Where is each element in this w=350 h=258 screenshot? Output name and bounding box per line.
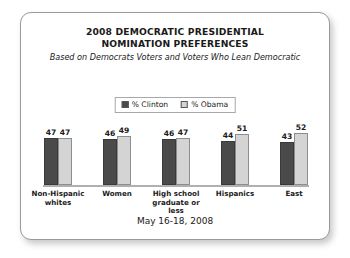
bar-clinton: 46	[162, 139, 176, 185]
bar-obama: 52	[294, 133, 308, 185]
bar-value-label: 47	[60, 128, 71, 137]
bar-clinton: 43	[280, 142, 294, 185]
chart-card: 2008 DEMOCRATIC PRESIDENTIAL NOMINATION …	[20, 12, 330, 240]
legend-item-obama: % Obama	[181, 100, 228, 109]
category-label: Hispanics	[207, 190, 263, 216]
bar-clinton: 44	[221, 141, 235, 185]
chart-subtitle: Based on Democrats Voters and Voters Who…	[21, 52, 329, 62]
chart-legend: % Clinton % Obama	[115, 97, 236, 113]
bar-obama: 47	[58, 138, 72, 185]
legend-item-clinton: % Clinton	[122, 100, 168, 109]
chart-plot-area: 47474649464744514352	[43, 125, 309, 187]
bar-value-label: 47	[46, 128, 57, 137]
bar-group: 4647	[161, 125, 191, 185]
legend-label-obama: % Obama	[191, 100, 228, 109]
chart-title-line-2: NOMINATION PREFERENCES	[21, 38, 329, 50]
bar-value-label: 46	[164, 129, 175, 138]
category-label: Women	[89, 190, 145, 216]
clinton-swatch-icon	[122, 101, 129, 108]
screenshot-root: 2008 DEMOCRATIC PRESIDENTIAL NOMINATION …	[0, 0, 350, 258]
legend-label-clinton: % Clinton	[132, 100, 168, 109]
bar-obama: 51	[235, 134, 249, 185]
x-axis-baseline	[43, 185, 309, 187]
chart-footer-date: May 16-18, 2008	[21, 216, 329, 226]
bar-value-label: 46	[105, 129, 116, 138]
bar-group: 4649	[102, 125, 132, 185]
chart-title-line-1: 2008 DEMOCRATIC PRESIDENTIAL	[21, 26, 329, 38]
category-label: High school graduate or less	[148, 190, 204, 216]
bar-obama: 49	[117, 136, 131, 185]
bar-value-label: 44	[223, 131, 234, 140]
category-label: East	[266, 190, 322, 216]
category-labels: Non-Hispanic whitesWomenHigh school grad…	[43, 190, 309, 216]
bar-value-label: 49	[119, 126, 130, 135]
category-label: Non-Hispanic whites	[30, 190, 86, 216]
bar-clinton: 47	[44, 138, 58, 185]
bar-value-label: 47	[178, 128, 189, 137]
bar-value-label: 52	[296, 123, 307, 132]
bar-clinton: 46	[103, 139, 117, 185]
obama-swatch-icon	[181, 101, 188, 108]
bar-obama: 47	[176, 138, 190, 185]
bar-value-label: 51	[237, 124, 248, 133]
bar-groups: 47474649464744514352	[43, 125, 309, 185]
bar-group: 4352	[279, 125, 309, 185]
bar-group: 4747	[43, 125, 73, 185]
bar-value-label: 43	[282, 132, 293, 141]
bar-group: 4451	[220, 125, 250, 185]
title-block: 2008 DEMOCRATIC PRESIDENTIAL NOMINATION …	[21, 26, 329, 62]
